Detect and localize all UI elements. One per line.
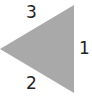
triangle-diagram: 3 1 2 (0, 0, 92, 98)
side-label-1: 1 (79, 40, 90, 57)
triangle-polygon (0, 5, 74, 93)
side-label-2: 2 (26, 75, 37, 92)
side-label-3: 3 (26, 4, 37, 21)
